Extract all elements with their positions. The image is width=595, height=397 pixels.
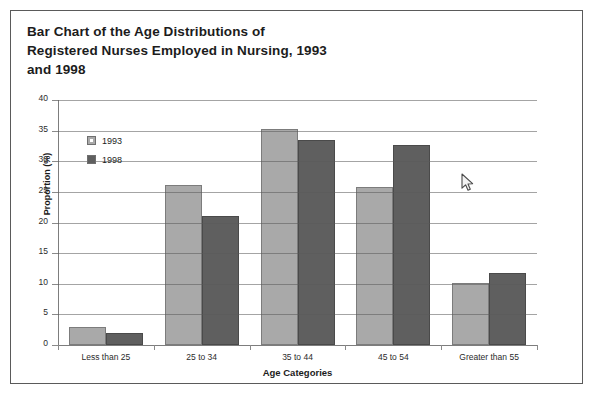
y-tick-label: 40	[39, 93, 48, 103]
bar-1993-45-to-54	[356, 187, 393, 345]
legend-swatch-icon-1998	[87, 155, 96, 164]
legend-label-1993: 1993	[102, 136, 122, 146]
y-tick-label: 30	[39, 154, 48, 164]
bar-1998-less-than-25	[106, 333, 143, 345]
x-category-label: 25 to 34	[186, 352, 217, 362]
legend-swatch-icon-1993	[87, 136, 96, 145]
x-tick-mark	[250, 345, 251, 350]
x-tick-mark	[345, 345, 346, 350]
bar-1998-45-to-54	[393, 145, 430, 345]
x-axis-line	[58, 345, 537, 346]
bar-1998-35-to-44	[298, 140, 335, 345]
screenshot-root: Bar Chart of the Age Distributions of Re…	[0, 0, 595, 397]
legend-label-1998: 1998	[102, 155, 122, 165]
y-tick-label: 5	[43, 307, 48, 317]
y-tick-label: 15	[39, 246, 48, 256]
chart-legend: 1993 1998	[87, 131, 122, 169]
x-category-label: 45 to 54	[378, 352, 409, 362]
bar-1993-greater-than-55	[452, 283, 489, 345]
bar-1998-25-to-34	[202, 216, 239, 345]
x-tick-mark	[441, 345, 442, 350]
y-tick-label: 25	[39, 185, 48, 195]
y-tick-label: 0	[43, 338, 48, 348]
x-tick-mark	[58, 345, 59, 350]
x-category-label: Greater than 55	[459, 352, 519, 362]
y-tick-label: 35	[39, 124, 48, 134]
legend-item-1993: 1993	[87, 131, 122, 150]
x-category-label: 35 to 44	[282, 352, 313, 362]
bar-1993-less-than-25	[69, 327, 106, 345]
bar-1998-greater-than-55	[489, 273, 526, 345]
x-axis-title: Age Categories	[58, 367, 537, 378]
y-tick-label: 20	[39, 216, 48, 226]
legend-item-1998: 1998	[87, 150, 122, 169]
chart-card: Bar Chart of the Age Distributions of Re…	[10, 10, 583, 384]
y-tick-label: 10	[39, 277, 48, 287]
x-tick-mark	[537, 345, 538, 350]
x-category-label: Less than 25	[82, 352, 131, 362]
bars-layer	[58, 100, 537, 345]
bar-1993-25-to-34	[165, 185, 202, 345]
plot-wrapper: Proportion (%) 0510152025303540 Less tha…	[11, 11, 584, 385]
x-tick-mark	[154, 345, 155, 350]
bar-1993-35-to-44	[261, 129, 298, 345]
